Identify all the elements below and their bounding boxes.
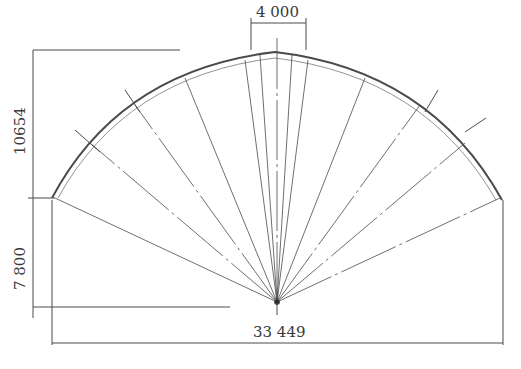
dim-top-width: 4 000 (256, 3, 299, 21)
dim-left-lower-height: 7 800 (11, 247, 29, 290)
ribs (55, 38, 500, 302)
arch-diagram: 4 000 10654 7 800 33 449 (0, 0, 521, 369)
dim-base-span: 33 449 (253, 323, 306, 341)
dim-left-total-height: 10654 (11, 107, 29, 155)
